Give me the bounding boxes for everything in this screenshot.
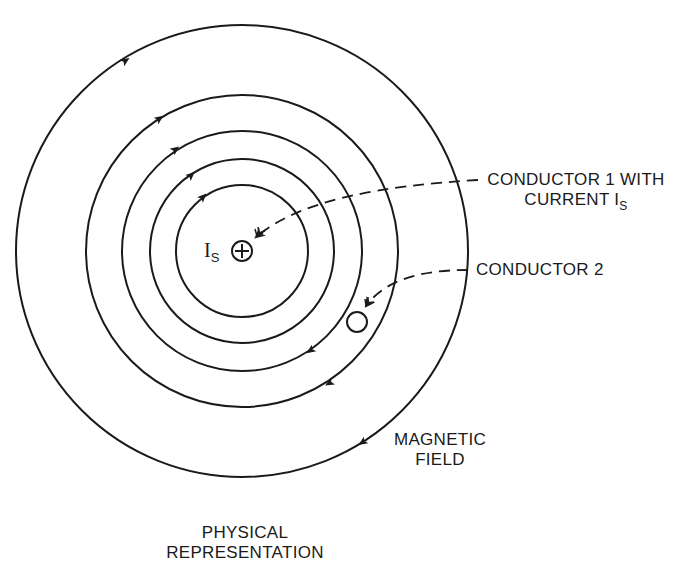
conductor-1-label-line2: CURRENT IS <box>476 190 676 216</box>
conductor-2-label: CONDUCTOR 2 <box>476 260 604 280</box>
leader-line-conductor-2 <box>366 270 468 306</box>
leader-lines <box>256 180 478 306</box>
magnetic-field-diagram <box>0 0 695 577</box>
conductor-1-plus-in-circle-icon <box>232 241 252 261</box>
figure-caption: PHYSICAL REPRESENTATION <box>165 523 325 563</box>
magnetic-field-label-line2: FIELD <box>382 450 498 470</box>
conductor-1-label-prefix: CURRENT I <box>524 190 619 209</box>
conductor-1-label: CONDUCTOR 1 WITH CURRENT IS <box>476 170 676 216</box>
figure-caption-line1: PHYSICAL <box>165 523 325 543</box>
magnetic-field-label: MAGNETIC FIELD <box>382 430 498 470</box>
arrow-icon <box>154 113 166 125</box>
figure-caption-line2: REPRESENTATION <box>165 543 325 563</box>
conductor-2-label-text: CONDUCTOR 2 <box>476 260 604 279</box>
magnetic-field-label-line1: MAGNETIC <box>382 430 498 450</box>
conductor-1-label-subscript: S <box>619 199 627 213</box>
leader-line-conductor-1 <box>256 180 478 237</box>
arrow-feather-icons <box>255 227 374 306</box>
source-current-subscript: S <box>211 250 220 265</box>
source-current-symbol: I <box>204 239 211 261</box>
arrow-icon <box>356 437 368 449</box>
conductor-1-label-line1: CONDUCTOR 1 WITH <box>476 170 676 190</box>
conductor-2-circle-icon <box>347 312 367 332</box>
source-current-label: IS <box>204 239 219 265</box>
